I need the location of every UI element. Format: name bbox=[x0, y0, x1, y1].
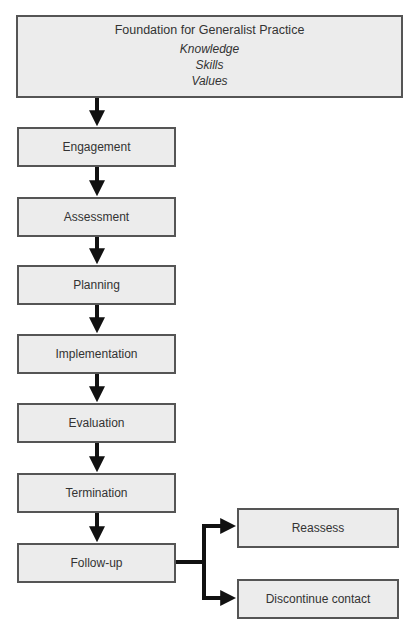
connector-arrows bbox=[0, 0, 415, 628]
